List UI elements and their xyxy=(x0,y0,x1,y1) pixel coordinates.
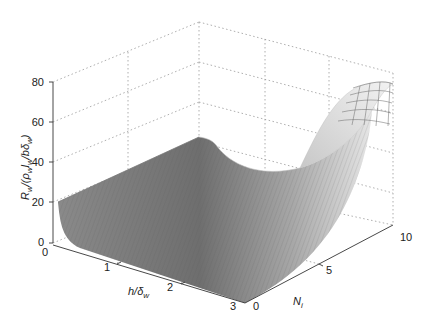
y-tick-10: 10 xyxy=(400,231,412,243)
y-tick-5: 5 xyxy=(326,264,332,276)
surface-plot: 80 60 40 20 0 0 1 2 3 0 5 10 h/δw Ni Rw/… xyxy=(0,0,425,320)
y-tick-0: 0 xyxy=(253,300,259,312)
x-tick-0: 0 xyxy=(42,246,48,258)
y-axis-label: Ni xyxy=(293,295,303,310)
z-tick-20: 20 xyxy=(32,196,44,208)
x-tick-3: 3 xyxy=(230,300,236,312)
z-tick-60: 60 xyxy=(32,116,44,128)
z-tick-80: 80 xyxy=(32,76,44,88)
x-tick-2: 2 xyxy=(167,281,173,293)
x-axis-label: h/δw xyxy=(128,285,150,300)
x-tick-1: 1 xyxy=(104,261,110,273)
